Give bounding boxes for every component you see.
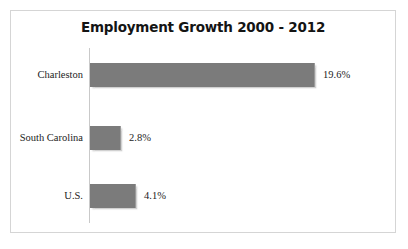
bar-us — [90, 184, 136, 208]
value-label-charleston: 19.6% — [323, 70, 350, 81]
category-label-charleston: Charleston — [11, 70, 89, 81]
bar-row: U.S. 4.1% — [11, 183, 397, 209]
chart-frame: Employment Growth 2000 - 2012 Charleston… — [10, 10, 396, 233]
bar-south-carolina — [90, 126, 121, 150]
bar-charleston — [90, 63, 315, 87]
bar-row: Charleston 19.6% — [11, 62, 397, 88]
bar-container: 2.8% — [90, 125, 151, 151]
value-label-us: 4.1% — [144, 191, 166, 202]
value-label-south-carolina: 2.8% — [129, 133, 151, 144]
bar-row: South Carolina 2.8% — [11, 125, 397, 151]
category-label-us: U.S. — [11, 191, 89, 202]
chart-title: Employment Growth 2000 - 2012 — [11, 19, 395, 35]
bar-container: 19.6% — [90, 62, 350, 88]
plot-area: Charleston 19.6% South Carolina 2.8% U.S… — [11, 41, 397, 233]
category-label-south-carolina: South Carolina — [11, 133, 89, 144]
bar-container: 4.1% — [90, 183, 166, 209]
